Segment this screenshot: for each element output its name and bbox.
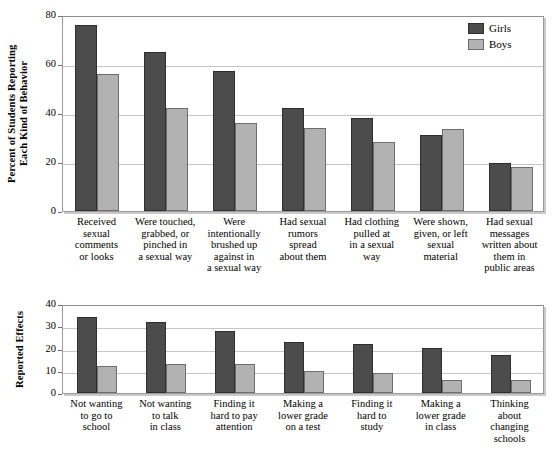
y-tick-label: 80: [28, 9, 56, 20]
y-tick-label: 40: [28, 107, 56, 118]
x-axis-category-label: Received sexual comments or looks: [62, 216, 131, 274]
bar-girls: [491, 355, 511, 393]
x-axis-category-label: Were shown, given, or left sexual materi…: [406, 216, 475, 274]
y-tick-mark: [58, 114, 62, 115]
chart-panel-effects: Reported Effects 010203040 Not wanting t…: [0, 300, 554, 455]
bar-group: [270, 306, 339, 393]
bar-girls: [75, 25, 97, 211]
y-tick-mark: [58, 372, 62, 373]
bar-group: [132, 17, 201, 211]
y-tick-label: 40: [28, 298, 56, 309]
bar-boys: [442, 380, 462, 393]
bar-group: [63, 306, 132, 393]
bar-girls: [282, 108, 304, 211]
x-axis-labels-bottom: Not wanting to go to schoolNot wanting t…: [62, 398, 544, 444]
bar-boys: [97, 366, 117, 393]
bar-boys: [235, 364, 255, 393]
bar-girls: [215, 331, 235, 393]
bar-boys: [442, 129, 464, 211]
y-tick-mark: [58, 350, 62, 351]
legend-item-girls: Girls: [468, 22, 512, 34]
bar-boys: [373, 373, 393, 393]
legend: Girls Boys: [468, 22, 512, 50]
y-tick-mark: [58, 305, 62, 306]
y-tick-label: 20: [28, 156, 56, 167]
y-tick-label: 0: [28, 205, 56, 216]
y-tick-label: 10: [28, 365, 56, 376]
x-axis-category-label: Not wanting to go to school: [62, 398, 131, 444]
y-tick-mark: [58, 327, 62, 328]
bar-girls: [77, 317, 97, 393]
x-axis-category-label: Were intentionally brushed up against in…: [200, 216, 269, 274]
bar-group: [407, 306, 476, 393]
bar-girls: [420, 135, 442, 211]
legend-item-boys: Boys: [468, 38, 512, 50]
bar-boys: [304, 128, 326, 211]
bar-group: [338, 306, 407, 393]
y-tick-mark: [58, 65, 62, 66]
bar-group: [201, 17, 270, 211]
y-tick-label: 0: [28, 387, 56, 398]
x-axis-category-label: Had sexual rumors spread about them: [269, 216, 338, 274]
bar-girls: [284, 342, 304, 393]
bar-girls: [146, 322, 166, 393]
bar-group: [63, 17, 132, 211]
bar-girls: [489, 163, 511, 211]
bar-group: [407, 17, 476, 211]
bar-boys: [511, 167, 533, 211]
bar-girls: [353, 344, 373, 393]
figure-two-bar-charts: Percent of Students Reporting Each Kind …: [0, 0, 554, 455]
bar-boys: [235, 123, 257, 211]
bar-group: [270, 17, 339, 211]
x-axis-category-label: Had clothing pulled at in a sexual way: [337, 216, 406, 274]
bar-girls: [351, 118, 373, 211]
y-tick-label: 30: [28, 320, 56, 331]
y-tick-mark: [58, 163, 62, 164]
bar-boys: [166, 364, 186, 393]
x-axis-category-label: Making a lower grade in class: [406, 398, 475, 444]
bar-boys: [304, 371, 324, 393]
y-tick-label: 60: [28, 58, 56, 69]
bar-group: [338, 17, 407, 211]
bar-boys: [97, 74, 119, 211]
legend-label-girls: Girls: [489, 22, 511, 34]
x-axis-labels-top: Received sexual comments or looksWere to…: [62, 216, 544, 274]
y-tick-label: 20: [28, 343, 56, 354]
legend-swatch-girls-icon: [468, 23, 484, 34]
bar-boys: [166, 108, 188, 211]
legend-swatch-boys-icon: [468, 39, 484, 50]
bar-girls: [144, 52, 166, 211]
x-axis-category-label: Making a lower grade on a test: [269, 398, 338, 444]
x-axis-category-label: Were touched, grabbed, or pinched in a s…: [131, 216, 200, 274]
x-axis-category-label: Had sexual messages written about them i…: [475, 216, 544, 274]
x-axis-category-label: Not wanting to talk in class: [131, 398, 200, 444]
bar-boys: [511, 380, 531, 393]
y-tick-mark: [58, 394, 62, 395]
plot-area-bottom: [62, 305, 544, 394]
y-tick-mark: [58, 212, 62, 213]
x-axis-category-label: Thinking about changing schools: [475, 398, 544, 444]
bar-group: [201, 306, 270, 393]
bar-group: [132, 306, 201, 393]
x-axis-category-label: Finding it hard to study: [337, 398, 406, 444]
bar-girls: [422, 348, 442, 393]
bar-boys: [373, 142, 395, 211]
y-tick-mark: [58, 16, 62, 17]
bar-group: [476, 306, 544, 393]
legend-label-boys: Boys: [489, 38, 512, 50]
chart-panel-behavior: Percent of Students Reporting Each Kind …: [0, 0, 554, 305]
bar-girls: [213, 71, 235, 211]
x-axis-category-label: Finding it hard to pay attention: [200, 398, 269, 444]
